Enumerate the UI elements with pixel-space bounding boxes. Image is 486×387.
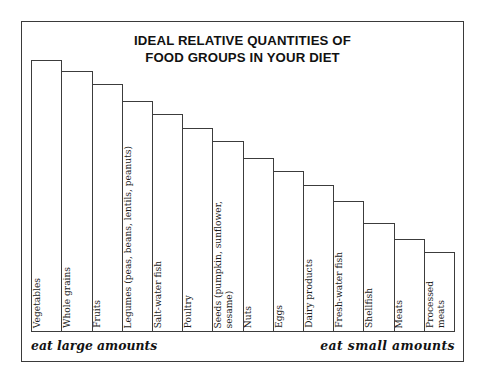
bar-label-8-line-1: Nuts xyxy=(243,306,253,328)
bar-label-11-line-1: Fresh-water fish xyxy=(334,252,344,328)
footer-caption-left: eat large amounts xyxy=(31,338,157,353)
bar-3[interactable]: Fruits xyxy=(91,84,122,331)
bar-5[interactable]: Salt-water fish xyxy=(152,114,183,331)
footer-caption-right: eat small amounts xyxy=(320,338,455,353)
chart-frame: IDEAL RELATIVE QUANTITIES OF FOOD GROUPS… xyxy=(21,21,464,362)
bar-label-7: Seeds (pumpkin, sunflower,sesame) xyxy=(213,201,242,328)
bar-label-2: Whole grains xyxy=(62,267,91,328)
chart-footer: eat large amounts eat small amounts xyxy=(31,338,455,353)
bar-label-7-line-2: sesame) xyxy=(224,201,235,328)
bar-7[interactable]: Seeds (pumpkin, sunflower,sesame) xyxy=(212,141,243,331)
chart-title-line-1: IDEAL RELATIVE QUANTITIES OF xyxy=(22,33,463,50)
bar-label-9-line-1: Eggs xyxy=(274,305,284,328)
bar-label-6: Poultry xyxy=(183,295,212,328)
bar-8[interactable]: Nuts xyxy=(242,158,273,331)
bar-label-13: Meats xyxy=(394,300,423,328)
bar-label-1: Vegetables xyxy=(32,278,61,328)
chart-plot-area: VegetablesWhole grainsFruitsLegumes (pea… xyxy=(31,60,455,331)
bar-1[interactable]: Vegetables xyxy=(31,60,62,331)
bar-9[interactable]: Eggs xyxy=(273,171,304,331)
bar-label-4-line-1: Legumes (peas, beans, lentils, peanuts) xyxy=(123,146,133,328)
bar-label-5-line-1: Salt-water fish xyxy=(153,261,163,328)
bar-label-13-line-1: Meats xyxy=(394,300,404,328)
chart-baseline xyxy=(31,331,455,332)
bar-label-3-line-1: Fruits xyxy=(92,300,102,328)
bar-label-14-line-2: meats xyxy=(435,281,446,328)
bar-label-5: Salt-water fish xyxy=(153,261,182,328)
bar-14[interactable]: Processedmeats xyxy=(424,252,455,331)
bar-label-3: Fruits xyxy=(92,300,121,328)
bar-6[interactable]: Poultry xyxy=(182,128,213,331)
bar-label-12: Shellfish xyxy=(364,288,393,328)
bar-label-6-line-1: Poultry xyxy=(183,295,193,328)
bar-12[interactable]: Shellfish xyxy=(363,223,394,331)
bar-11[interactable]: Fresh-water fish xyxy=(333,201,364,331)
bar-2[interactable]: Whole grains xyxy=(61,71,92,331)
bar-label-10: Dairy products xyxy=(304,259,333,328)
bar-4[interactable]: Legumes (peas, beans, lentils, peanuts) xyxy=(122,101,153,331)
bar-label-9: Eggs xyxy=(274,305,303,328)
bar-10[interactable]: Dairy products xyxy=(303,185,334,331)
bar-series: VegetablesWhole grainsFruitsLegumes (pea… xyxy=(31,60,455,331)
bar-label-11: Fresh-water fish xyxy=(334,252,363,328)
bar-label-14-line-1: Processed xyxy=(425,281,435,328)
bar-label-2-line-1: Whole grains xyxy=(62,267,72,328)
bar-label-4: Legumes (peas, beans, lentils, peanuts) xyxy=(123,146,152,328)
bar-label-1-line-1: Vegetables xyxy=(32,278,42,328)
bar-label-14: Processedmeats xyxy=(425,281,454,328)
bar-label-8: Nuts xyxy=(243,306,272,328)
bar-label-12-line-1: Shellfish xyxy=(364,288,374,328)
bar-label-10-line-1: Dairy products xyxy=(304,259,314,328)
bar-label-7-line-1: Seeds (pumpkin, sunflower, xyxy=(213,201,223,328)
bar-13[interactable]: Meats xyxy=(393,239,424,331)
